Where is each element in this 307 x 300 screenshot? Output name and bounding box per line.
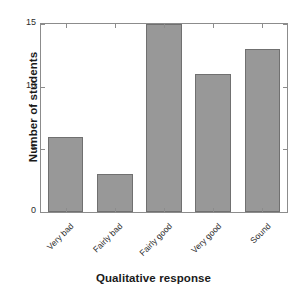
y-tick-mark bbox=[283, 24, 287, 25]
y-tick-mark bbox=[283, 149, 287, 150]
y-tick-label: 15 bbox=[18, 17, 36, 27]
x-tick-mark bbox=[115, 208, 116, 212]
x-tick-mark bbox=[213, 24, 214, 28]
bar bbox=[195, 74, 230, 212]
x-tick-mark bbox=[262, 208, 263, 212]
x-tick-mark bbox=[66, 208, 67, 212]
x-axis-title: Qualitative response bbox=[0, 272, 307, 284]
x-tick-mark bbox=[164, 208, 165, 212]
x-tick-mark bbox=[213, 208, 214, 212]
y-tick-mark bbox=[41, 87, 45, 88]
y-tick-label: 0 bbox=[18, 205, 36, 215]
bar bbox=[245, 49, 280, 212]
x-tick-label: Fairly good bbox=[137, 221, 174, 258]
y-tick-label: 5 bbox=[18, 142, 36, 152]
y-tick-mark bbox=[283, 87, 287, 88]
y-tick-label: 10 bbox=[18, 80, 36, 90]
x-tick-label: Sound bbox=[248, 221, 272, 245]
y-axis-tick-labels: 051015 bbox=[18, 0, 36, 300]
x-tick-label: Fairly bad bbox=[91, 221, 124, 254]
x-axis-tick-labels: Very badFairly badFairly goodVery goodSo… bbox=[40, 213, 288, 273]
bar bbox=[146, 24, 181, 212]
x-tick-mark bbox=[262, 24, 263, 28]
plot-area bbox=[40, 23, 288, 213]
bar bbox=[97, 174, 132, 212]
x-tick-mark bbox=[164, 24, 165, 28]
y-tick-mark bbox=[41, 149, 45, 150]
y-tick-mark bbox=[41, 24, 45, 25]
x-tick-label: Very bad bbox=[45, 221, 76, 252]
x-tick-mark bbox=[66, 24, 67, 28]
bar bbox=[48, 137, 83, 212]
x-tick-label: Very good bbox=[189, 221, 223, 255]
x-tick-mark bbox=[115, 24, 116, 28]
bar-chart-figure: Number of students 051015 Very badFairly… bbox=[0, 0, 307, 300]
